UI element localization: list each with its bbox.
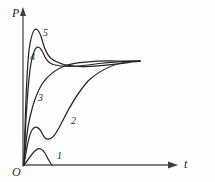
curve-1-path (24, 149, 52, 165)
x-axis-arrowhead (168, 162, 178, 169)
origin-label: O (12, 166, 21, 178)
y-axis-label: P (12, 7, 19, 19)
curve-4-path (24, 47, 140, 165)
curve-label-4: 4 (30, 52, 35, 62)
y-axis-arrowhead (20, 7, 26, 16)
x-axis-label: t (184, 158, 187, 170)
curve-label-2: 2 (71, 116, 76, 126)
figure-container: P t O 5 4 3 2 1 (0, 0, 215, 182)
plot-canvas (0, 0, 215, 182)
curve-label-3: 3 (38, 93, 43, 103)
curve-label-1: 1 (57, 151, 62, 161)
curve-label-5: 5 (43, 28, 48, 38)
